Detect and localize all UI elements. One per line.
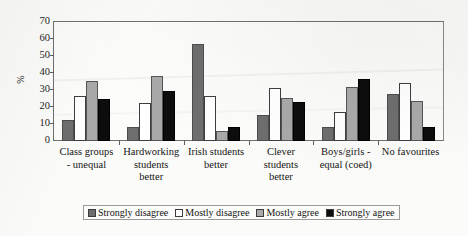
bar	[269, 88, 281, 141]
bar	[127, 127, 139, 141]
x-axis-category-line: students	[119, 159, 184, 172]
bar	[387, 94, 399, 141]
y-axis-tick-label: 0	[28, 135, 50, 146]
y-axis-tick-mark	[50, 38, 54, 39]
legend-label: Strongly disagree	[98, 208, 168, 218]
x-axis-tick-mark	[313, 141, 314, 145]
x-axis-category-line: Hardworking	[119, 146, 184, 159]
legend-item[interactable]: Strongly agree	[326, 208, 395, 218]
legend-item[interactable]: Strongly disagree	[88, 208, 168, 218]
bar	[411, 101, 423, 141]
y-axis-tick-label: 50	[28, 50, 50, 61]
x-axis-category-line: students	[249, 159, 314, 172]
bar-group	[313, 22, 378, 141]
bar-group	[184, 22, 249, 141]
bar	[358, 79, 370, 141]
x-axis-category-line: Class groups	[54, 146, 119, 159]
bar	[204, 96, 216, 141]
legend-label: Mostly agree	[266, 208, 319, 218]
x-axis-category-line: better	[249, 171, 314, 184]
bar-group	[249, 22, 314, 141]
bar	[228, 127, 240, 141]
x-axis-category-label: Irish studentsbetter	[184, 146, 249, 171]
bar	[423, 127, 435, 141]
y-axis-tick-label: 20	[28, 101, 50, 112]
x-axis-category-line: better	[119, 171, 184, 184]
x-axis-category-line: - unequal	[54, 159, 119, 172]
legend-label: Strongly agree	[336, 208, 395, 218]
bars-layer	[54, 22, 443, 141]
y-axis-tick-mark	[50, 106, 54, 107]
y-axis-tick-mark	[50, 89, 54, 90]
x-axis-category-label: Boys/girls -equal (coed)	[313, 146, 378, 171]
legend-swatch-icon	[88, 209, 96, 217]
bar	[98, 99, 110, 141]
legend-item[interactable]: Mostly disagree	[175, 208, 249, 218]
bar	[62, 120, 74, 141]
y-axis-tick-mark	[50, 55, 54, 56]
bar-group	[378, 22, 443, 141]
bar	[257, 115, 269, 141]
bar	[86, 81, 98, 141]
chart-figure: 010203040506070 % Class groups- unequalH…	[0, 0, 468, 236]
x-axis-category-label: No favourites	[378, 146, 443, 159]
legend-swatch-icon	[326, 209, 334, 217]
y-axis-tick-label: 70	[28, 16, 50, 27]
bar	[163, 91, 175, 141]
bar-group	[119, 22, 184, 141]
y-axis-tick-label: 40	[28, 67, 50, 78]
x-axis-category-line: No favourites	[378, 146, 443, 159]
bar-group	[54, 22, 119, 141]
y-axis-tick-label: 10	[28, 118, 50, 129]
bar	[334, 112, 346, 141]
x-axis-category-labels: Class groups- unequalHardworkingstudents…	[54, 146, 443, 196]
bar	[216, 131, 228, 141]
bar	[151, 76, 163, 141]
x-axis-tick-mark	[249, 141, 250, 145]
x-axis-category-label: Hardworkingstudentsbetter	[119, 146, 184, 184]
bar	[399, 83, 411, 141]
bar	[192, 44, 204, 141]
x-axis-tick-mark	[119, 141, 120, 145]
y-axis-tick-mark	[50, 72, 54, 73]
y-axis-tick-mark	[50, 123, 54, 124]
y-axis-tick-label: 60	[28, 33, 50, 44]
x-axis-tick-mark	[378, 141, 379, 145]
x-axis-category-line: Clever	[249, 146, 314, 159]
legend-swatch-icon	[256, 209, 264, 217]
chart-legend: Strongly disagreeMostly disagreeMostly a…	[83, 205, 400, 220]
x-axis-category-line: equal (coed)	[313, 159, 378, 172]
legend-label: Mostly disagree	[185, 208, 249, 218]
bar	[346, 87, 358, 141]
x-axis-tick-mark	[184, 141, 185, 145]
x-axis-category-label: Class groups- unequal	[54, 146, 119, 171]
y-axis-tick-label: 30	[28, 84, 50, 95]
x-axis-category-label: Cleverstudentsbetter	[249, 146, 314, 184]
x-axis-category-line: better	[184, 159, 249, 172]
bar	[293, 102, 305, 141]
bar	[281, 98, 293, 141]
legend-item[interactable]: Mostly agree	[256, 208, 319, 218]
y-axis-title: %	[15, 75, 26, 83]
x-axis-category-line: Boys/girls -	[313, 146, 378, 159]
bar	[74, 96, 86, 141]
x-axis-category-line: Irish students	[184, 146, 249, 159]
bar	[322, 127, 334, 141]
bar	[139, 103, 151, 141]
legend-swatch-icon	[175, 209, 183, 217]
